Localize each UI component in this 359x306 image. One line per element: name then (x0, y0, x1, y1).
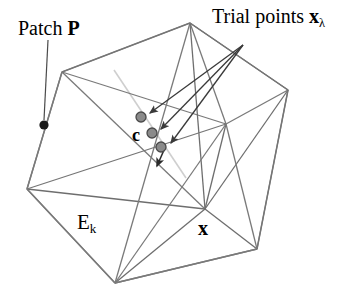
trial-point-1 (136, 112, 146, 122)
mesh-edges-upper (27, 23, 288, 209)
diagram-svg (0, 0, 359, 306)
patch-label: Patch P (18, 18, 80, 38)
mesh-edges-lower (27, 23, 257, 283)
patch-label-text: Patch (18, 17, 67, 39)
trial-point-markers (136, 112, 166, 152)
patch-label-symbol: P (67, 17, 79, 39)
vertex-x-label: x (198, 218, 208, 238)
trial-point-arrows (150, 45, 243, 143)
trial-points-label-subscript: λ (319, 16, 325, 30)
mesh-edges-hub (27, 23, 288, 283)
element-label-subscript: k (90, 221, 97, 236)
centroid-c-label: c (132, 126, 140, 144)
trial-points-label: Trial points xλ (212, 6, 325, 26)
outer-polygon (27, 23, 288, 283)
patch-leader-line (44, 40, 48, 120)
trial-points-label-text: Trial points (212, 5, 309, 27)
trial-point-3 (156, 142, 166, 152)
element-label-symbol: E (77, 210, 90, 234)
patch-point-marker (39, 120, 48, 129)
figure-canvas: Patch P Trial points xλ Ek x c (0, 0, 359, 306)
trial-point-2 (147, 128, 157, 138)
trial-points-label-symbol: x (309, 5, 319, 27)
element-label: Ek (77, 212, 96, 233)
